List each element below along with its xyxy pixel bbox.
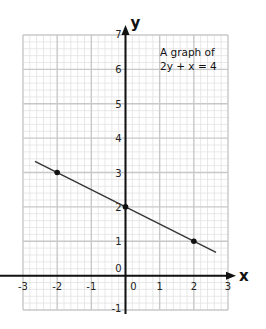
chart-subtitle: 2y + x = 4 [160, 60, 217, 72]
y-tick-labels: -101234567 [112, 29, 122, 314]
chart-title: A graph of [160, 46, 215, 58]
x-axis-label: x [239, 267, 249, 285]
x-tick-label: -1 [86, 281, 96, 292]
y-tick-label: 1 [115, 236, 121, 247]
x-axis-arrow-icon [226, 272, 236, 280]
data-point [54, 170, 60, 176]
x-tick-label: 0 [130, 281, 136, 292]
y-tick-label: -1 [112, 303, 122, 314]
y-tick-label: 3 [115, 168, 121, 179]
y-tick-label: 7 [115, 29, 121, 40]
graph-chart: x y -3-2-10123 -101234567 A graph of 2y … [0, 0, 266, 329]
y-axis-label: y [131, 14, 141, 32]
data-point [123, 204, 129, 210]
y-axis-arrow-icon [122, 25, 130, 35]
x-tick-label: -3 [18, 281, 28, 292]
x-tick-label: 2 [191, 281, 197, 292]
x-tick-label: 3 [225, 281, 231, 292]
y-tick-label: 6 [115, 64, 121, 75]
y-tick-label: 0 [115, 263, 121, 274]
y-tick-label: 4 [115, 133, 121, 144]
x-tick-label: 1 [156, 281, 162, 292]
y-tick-label: 5 [115, 99, 121, 110]
x-tick-label: -2 [52, 281, 62, 292]
data-point [191, 238, 197, 244]
